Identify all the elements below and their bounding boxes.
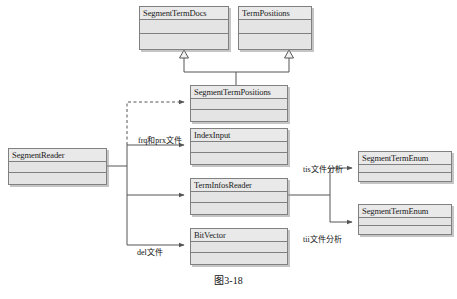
class-operations-segment-term-docs — [140, 34, 228, 48]
class-operations-term-positions — [239, 34, 311, 48]
class-box-index-input[interactable]: IndexInput — [190, 128, 288, 165]
class-attributes-segment-reader — [9, 162, 106, 173]
class-attributes-segment-term-enum-top — [359, 165, 451, 173]
class-operations-segment-term-positions — [191, 110, 287, 121]
class-box-segment-term-enum-bottom[interactable]: SegmentTermEnum — [358, 204, 452, 235]
figure-caption: 图3-18 — [0, 272, 457, 287]
class-attributes-segment-term-positions — [191, 99, 287, 110]
class-name-segment-term-docs: SegmentTermDocs — [140, 7, 228, 20]
class-operations-bit-vector — [191, 253, 287, 264]
class-box-bit-vector[interactable]: BitVector — [190, 228, 288, 265]
class-operations-term-infos-reader — [191, 203, 287, 214]
class-attributes-bit-vector — [191, 242, 287, 253]
class-name-segment-term-enum-bottom: SegmentTermEnum — [359, 205, 451, 218]
class-name-index-input: IndexInput — [191, 129, 287, 142]
class-name-segment-term-positions: SegmentTermPositions — [191, 86, 287, 99]
generalization-to-segment-term-docs — [180, 50, 189, 72]
class-name-bit-vector: BitVector — [191, 229, 287, 242]
class-name-segment-reader: SegmentReader — [9, 149, 106, 162]
edge-label-del: del文件 — [137, 246, 163, 257]
class-attributes-segment-term-docs — [140, 20, 228, 34]
class-box-segment-term-docs[interactable]: SegmentTermDocs — [139, 6, 229, 50]
class-box-term-infos-reader[interactable]: TermInfosReader — [190, 178, 288, 215]
class-name-term-positions: TermPositions — [239, 7, 311, 20]
generalization-to-term-positions — [285, 50, 294, 72]
class-operations-segment-term-enum-bottom — [359, 226, 451, 234]
edge-label-tis: tis文件分析 — [303, 163, 343, 174]
class-attributes-index-input — [191, 142, 287, 153]
class-operations-segment-term-enum-top — [359, 173, 451, 181]
class-name-term-infos-reader: TermInfosReader — [191, 179, 287, 192]
class-box-segment-term-enum-top[interactable]: SegmentTermEnum — [358, 151, 452, 182]
class-attributes-segment-term-enum-bottom — [359, 218, 451, 226]
class-box-segment-term-positions[interactable]: SegmentTermPositions — [190, 85, 288, 122]
class-name-segment-term-enum-top: SegmentTermEnum — [359, 152, 451, 165]
edge-label-frq-prx: frq和prx文件 — [138, 134, 182, 145]
class-attributes-term-infos-reader — [191, 192, 287, 203]
class-box-segment-reader[interactable]: SegmentReader — [8, 148, 107, 185]
class-attributes-term-positions — [239, 20, 311, 34]
edge-label-tii: tii文件分析 — [303, 233, 342, 244]
class-box-term-positions[interactable]: TermPositions — [238, 6, 312, 50]
diagram-canvas: SegmentTermDocs TermPositions SegmentTer… — [0, 0, 457, 299]
class-operations-index-input — [191, 153, 287, 164]
class-operations-segment-reader — [9, 173, 106, 184]
